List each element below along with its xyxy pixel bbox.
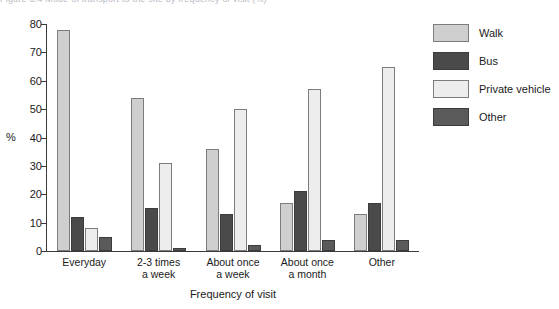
bar (382, 67, 395, 251)
legend-item: Other (433, 107, 557, 127)
bar (322, 240, 335, 251)
bar (396, 240, 409, 251)
bar (308, 89, 321, 251)
bar-group (354, 24, 409, 251)
bar-group (280, 24, 335, 251)
y-tick-mark (41, 24, 46, 25)
legend-swatch (433, 108, 469, 126)
y-tick-mark (41, 194, 46, 195)
bar-chart: % 80706050403020100 Everyday2-3 times a … (0, 0, 559, 309)
y-axis-title: % (6, 131, 16, 143)
bar (131, 98, 144, 251)
bar (71, 217, 84, 251)
bar (99, 237, 112, 251)
x-axis-line (46, 251, 419, 252)
y-tick-mark (41, 166, 46, 167)
legend-label: Walk (479, 27, 503, 39)
bar (354, 214, 367, 251)
bar (368, 203, 381, 251)
bar (294, 191, 307, 251)
legend-swatch (433, 80, 469, 98)
legend-label: Bus (479, 55, 498, 67)
bar (145, 208, 158, 251)
legend-label: Private vehicle (479, 83, 551, 95)
bar (280, 203, 293, 251)
bar (206, 149, 219, 251)
bar (173, 248, 186, 251)
bar-group (206, 24, 261, 251)
bar-group (131, 24, 186, 251)
legend-swatch (433, 24, 469, 42)
y-axis-tick-labels: 80706050403020100 (18, 18, 42, 258)
x-axis-label: 2-3 times a week (137, 256, 180, 280)
legend-item: Walk (433, 23, 557, 43)
bar (85, 228, 98, 251)
y-tick-mark (41, 138, 46, 139)
bar (57, 30, 70, 251)
bar (220, 214, 233, 251)
bar-group (57, 24, 112, 251)
y-tick-mark (41, 52, 46, 53)
x-axis-title: Frequency of visit (47, 288, 419, 300)
plot-area (47, 24, 419, 251)
x-axis-label: About once a month (281, 256, 334, 280)
legend-label: Other (479, 111, 507, 123)
y-tick-mark (41, 109, 46, 110)
legend-item: Bus (433, 51, 557, 71)
x-axis-label: Other (369, 256, 395, 268)
y-tick-mark (41, 81, 46, 82)
chart-legend: WalkBusPrivate vehicleOther (433, 23, 557, 135)
x-axis-label: Everyday (62, 256, 106, 268)
legend-item: Private vehicle (433, 79, 557, 99)
x-axis-category-labels: Everyday2-3 times a weekAbout once a wee… (47, 256, 419, 286)
y-tick-mark (41, 251, 46, 252)
legend-swatch (433, 52, 469, 70)
bar (248, 245, 261, 251)
bar (234, 109, 247, 251)
x-axis-label: About once a week (206, 256, 259, 280)
y-tick-mark (41, 223, 46, 224)
bar (159, 163, 172, 251)
